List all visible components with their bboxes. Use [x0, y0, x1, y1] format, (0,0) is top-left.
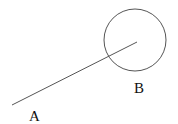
circle-b — [104, 9, 166, 71]
label-a: A — [29, 108, 40, 124]
diagram-canvas: A B — [0, 0, 178, 124]
label-b: B — [134, 80, 144, 96]
segment-ab — [12, 42, 137, 105]
